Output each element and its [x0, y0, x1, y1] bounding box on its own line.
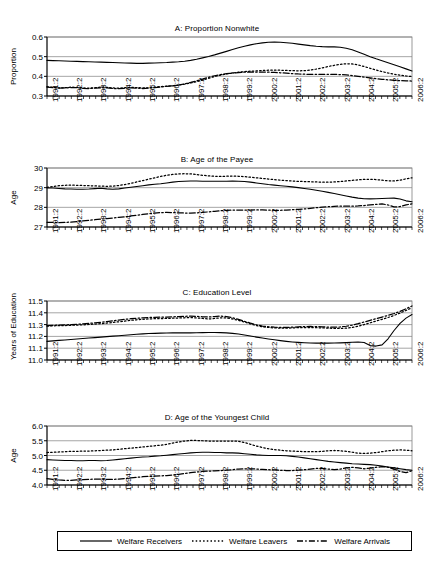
x-tick-label: 2003:2 — [343, 78, 352, 102]
x-tick-label: 1999:2 — [245, 467, 254, 491]
x-tick-label: 1999:2 — [245, 342, 254, 366]
x-tick-label: 1998:2 — [221, 467, 230, 491]
panel-b-plot: 27282930Age1991:21992:21993:21994:21995:… — [0, 166, 434, 244]
x-tick-label: 1991:2 — [51, 467, 60, 491]
x-tick-label: 1994:2 — [124, 209, 133, 233]
x-tick-label: 2006:2 — [416, 78, 425, 102]
series-line-welfare-receivers — [47, 181, 412, 202]
x-tick-label: 1993:2 — [99, 78, 108, 102]
legend-item-welfare-leavers: Welfare Leavers — [191, 537, 287, 546]
panel-d-plot: 4.04.55.05.56.0Age1991:21992:21993:21994… — [0, 424, 434, 502]
x-tick-label: 1993:2 — [99, 342, 108, 366]
x-tick-label: 1991:2 — [51, 78, 60, 102]
series-line-welfare-arrivals — [47, 306, 412, 327]
legend-line-swatch — [79, 537, 113, 545]
x-tick-label: 2005:2 — [391, 78, 400, 102]
x-tick-label: 2001:2 — [294, 342, 303, 366]
legend-label: Welfare Leavers — [229, 537, 287, 546]
x-tick-label: 2002:2 — [318, 78, 327, 102]
x-tick-label: 2004:2 — [367, 467, 376, 491]
y-axis-label: Proportion — [9, 37, 18, 96]
panel-d-age-youngest-child: D: Age of the Youngest Child 4.04.55.05.… — [0, 413, 434, 523]
panel-a-title: A: Proportion Nonwhite — [0, 24, 434, 33]
x-tick-label: 1997:2 — [197, 209, 206, 233]
legend-item-welfare-arrivals: Welfare Arrivals — [296, 537, 390, 546]
x-tick-label: 2000:2 — [270, 209, 279, 233]
panel-c-title: C: Education Level — [0, 288, 434, 297]
x-tick-label: 2004:2 — [367, 342, 376, 366]
figure-root: A: Proportion Nonwhite 0.30.40.50.6Propo… — [0, 0, 434, 570]
x-tick-label: 1997:2 — [197, 78, 206, 102]
panel-c-plot: 11.011.111.211.311.411.5Years of Educati… — [0, 299, 434, 377]
x-tick-label: 1992:2 — [75, 467, 84, 491]
x-tick-label: 1995:2 — [148, 467, 157, 491]
x-tick-label: 1992:2 — [75, 209, 84, 233]
legend: Welfare ReceiversWelfare LeaversWelfare … — [57, 531, 412, 551]
x-tick-label: 2000:2 — [270, 467, 279, 491]
x-tick-label: 2006:2 — [416, 342, 425, 366]
x-tick-label: 1992:2 — [75, 78, 84, 102]
legend-label: Welfare Arrivals — [334, 537, 390, 546]
x-tick-label: 2006:2 — [416, 209, 425, 233]
x-tick-label: 2005:2 — [391, 467, 400, 491]
x-tick-label: 1994:2 — [124, 78, 133, 102]
x-tick-label: 1995:2 — [148, 342, 157, 366]
series-line-welfare-leavers — [47, 174, 412, 188]
x-tick-label: 1996:2 — [172, 342, 181, 366]
x-tick-label: 2000:2 — [270, 78, 279, 102]
x-tick-label: 1995:2 — [148, 78, 157, 102]
x-tick-label: 1992:2 — [75, 342, 84, 366]
panel-c-education-level: C: Education Level 11.011.111.211.311.41… — [0, 288, 434, 398]
panel-b-age-of-payee: B: Age of the Payee 27282930Age1991:2199… — [0, 155, 434, 265]
x-tick-label: 1996:2 — [172, 209, 181, 233]
x-tick-label: 2001:2 — [294, 78, 303, 102]
legend-label: Welfare Receivers — [117, 537, 182, 546]
panel-b-title: B: Age of the Payee — [0, 155, 434, 164]
x-tick-label: 2002:2 — [318, 467, 327, 491]
legend-line-swatch — [191, 537, 225, 545]
legend-line-swatch — [296, 537, 330, 545]
x-tick-label: 1998:2 — [221, 78, 230, 102]
x-tick-label: 1991:2 — [51, 342, 60, 366]
x-tick-label: 2006:2 — [416, 467, 425, 491]
x-tick-label: 1998:2 — [221, 209, 230, 233]
panel-d-title: D: Age of the Youngest Child — [0, 413, 434, 422]
x-tick-label: 1999:2 — [245, 209, 254, 233]
x-tick-label: 2003:2 — [343, 342, 352, 366]
x-tick-label: 1995:2 — [148, 209, 157, 233]
x-tick-label: 1996:2 — [172, 467, 181, 491]
x-tick-label: 1998:2 — [221, 342, 230, 366]
x-tick-label: 2002:2 — [318, 209, 327, 233]
x-tick-label: 2005:2 — [391, 342, 400, 366]
x-tick-label: 2003:2 — [343, 209, 352, 233]
panel-a-plot: 0.30.40.50.6Proportion1991:21992:21993:2… — [0, 35, 434, 113]
series-line-welfare-leavers — [47, 308, 412, 329]
x-tick-label: 2001:2 — [294, 467, 303, 491]
x-tick-label: 1993:2 — [99, 209, 108, 233]
x-tick-label: 1997:2 — [197, 342, 206, 366]
legend-item-welfare-receivers: Welfare Receivers — [79, 537, 182, 546]
y-axis-label: Age — [9, 426, 18, 485]
x-tick-label: 2004:2 — [367, 209, 376, 233]
y-axis-label: Years of Education — [9, 301, 18, 360]
x-tick-label: 2004:2 — [367, 78, 376, 102]
x-tick-label: 2005:2 — [391, 209, 400, 233]
x-tick-label: 2003:2 — [343, 467, 352, 491]
panel-a-proportion-nonwhite: A: Proportion Nonwhite 0.30.40.50.6Propo… — [0, 24, 434, 134]
x-tick-label: 2002:2 — [318, 342, 327, 366]
x-tick-label: 1996:2 — [172, 78, 181, 102]
series-line-welfare-leavers — [47, 440, 412, 453]
x-tick-label: 2000:2 — [270, 342, 279, 366]
x-tick-label: 2001:2 — [294, 209, 303, 233]
x-tick-label: 1997:2 — [197, 467, 206, 491]
x-tick-label: 1993:2 — [99, 467, 108, 491]
x-tick-label: 1994:2 — [124, 342, 133, 366]
x-tick-label: 1994:2 — [124, 467, 133, 491]
x-tick-label: 1991:2 — [51, 209, 60, 233]
y-axis-label: Age — [9, 168, 18, 227]
x-tick-label: 1999:2 — [245, 78, 254, 102]
